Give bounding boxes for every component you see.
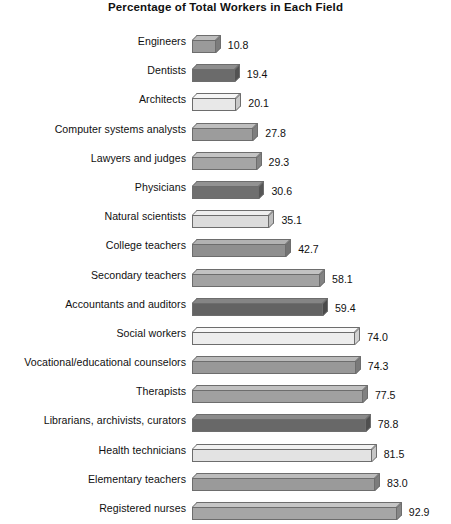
chart-row: Computer systems analysts27.8 <box>0 119 451 148</box>
bar <box>192 356 356 373</box>
category-label: Health technicians <box>0 444 186 456</box>
value-label: 30.6 <box>271 185 292 197</box>
bar <box>192 152 257 169</box>
chart-row: College teachers42.7 <box>0 235 451 264</box>
bar <box>192 444 372 461</box>
value-label: 58.1 <box>332 273 353 285</box>
value-label: 20.1 <box>248 97 269 109</box>
bar-side-face <box>363 385 368 403</box>
bar <box>192 327 355 344</box>
bar-front-face <box>192 478 375 491</box>
chart-row: Secondary teachers58.1 <box>0 265 451 294</box>
value-label: 74.3 <box>368 360 389 372</box>
bar-side-face <box>253 123 258 141</box>
bar <box>192 269 320 286</box>
bar <box>192 123 253 140</box>
category-label: Registered nurses <box>0 502 186 514</box>
bar-side-face <box>323 298 328 316</box>
bar-front-face <box>192 303 323 316</box>
bar-front-face <box>192 98 236 111</box>
bar <box>192 64 235 81</box>
chart-row: Natural scientists35.1 <box>0 206 451 235</box>
bar-front-face <box>192 244 286 257</box>
category-label: Lawyers and judges <box>0 152 186 164</box>
category-label: Secondary teachers <box>0 269 186 281</box>
bar-front-face <box>192 419 366 432</box>
category-label: College teachers <box>0 239 186 251</box>
value-label: 59.4 <box>335 302 356 314</box>
bar-front-face <box>192 507 397 520</box>
category-label: Elementary teachers <box>0 473 186 485</box>
category-label: Social workers <box>0 327 186 339</box>
value-label: 81.5 <box>384 448 405 460</box>
bar-side-face <box>235 64 240 82</box>
category-label: Architects <box>0 93 186 105</box>
chart-row: Architects20.1 <box>0 89 451 118</box>
chart-row: Engineers10.8 <box>0 31 451 60</box>
value-label: 74.0 <box>367 331 388 343</box>
chart-title: Percentage of Total Workers in Each Fiel… <box>0 1 451 13</box>
chart-row: Physicians30.6 <box>0 177 451 206</box>
bar-side-face <box>366 414 371 432</box>
chart-row: Therapists77.5 <box>0 381 451 410</box>
category-label: Therapists <box>0 385 186 397</box>
bar-side-face <box>355 327 360 345</box>
category-label: Vocational/educational counselors <box>0 356 186 368</box>
chart-plot-area: Engineers10.8Dentists19.4Architects20.1C… <box>0 31 451 524</box>
bar-side-face <box>216 35 221 53</box>
category-label: Engineers <box>0 35 186 47</box>
chart-row: Dentists19.4 <box>0 60 451 89</box>
bar-front-face <box>192 215 269 228</box>
bar-front-face <box>192 157 257 170</box>
value-label: 19.4 <box>247 68 268 80</box>
bar <box>192 414 366 431</box>
chart-row: Librarians, archivists, curators78.8 <box>0 410 451 439</box>
chart-row: Elementary teachers83.0 <box>0 469 451 498</box>
chart-row: Accountants and auditors59.4 <box>0 294 451 323</box>
bar-front-face <box>192 69 235 82</box>
bar <box>192 35 216 52</box>
bar <box>192 298 323 315</box>
chart-row: Lawyers and judges29.3 <box>0 148 451 177</box>
value-label: 35.1 <box>281 214 302 226</box>
bar-side-face <box>259 181 264 199</box>
bar <box>192 502 397 519</box>
bar-side-face <box>236 93 241 111</box>
value-label: 77.5 <box>375 389 396 401</box>
bar <box>192 93 236 110</box>
bar-side-face <box>375 473 380 491</box>
chart-row: Vocational/educational counselors74.3 <box>0 352 451 381</box>
value-label: 78.8 <box>378 418 399 430</box>
bar <box>192 181 259 198</box>
category-label: Dentists <box>0 64 186 76</box>
value-label: 92.9 <box>409 506 430 518</box>
value-label: 10.8 <box>228 39 249 51</box>
bar-side-face <box>286 239 291 257</box>
bar-front-face <box>192 186 259 199</box>
value-label: 83.0 <box>387 477 408 489</box>
category-label: Physicians <box>0 181 186 193</box>
value-label: 42.7 <box>298 243 319 255</box>
bar <box>192 473 375 490</box>
value-label: 27.8 <box>265 127 286 139</box>
chart-row: Registered nurses92.9 <box>0 498 451 524</box>
category-label: Computer systems analysts <box>0 123 186 135</box>
bar <box>192 239 286 256</box>
chart-row: Health technicians81.5 <box>0 440 451 469</box>
bar-front-face <box>192 128 253 141</box>
bar <box>192 385 363 402</box>
chart-row: Social workers74.0 <box>0 323 451 352</box>
bar-front-face <box>192 449 372 462</box>
bar-side-face <box>356 356 361 374</box>
bar-side-face <box>269 210 274 228</box>
bar-front-face <box>192 390 363 403</box>
bar-side-face <box>397 502 402 520</box>
category-label: Librarians, archivists, curators <box>0 414 186 426</box>
bar <box>192 210 269 227</box>
bar-side-face <box>320 269 325 287</box>
bar-front-face <box>192 40 216 53</box>
category-label: Accountants and auditors <box>0 298 186 310</box>
bar-front-face <box>192 361 356 374</box>
bar-front-face <box>192 332 355 345</box>
